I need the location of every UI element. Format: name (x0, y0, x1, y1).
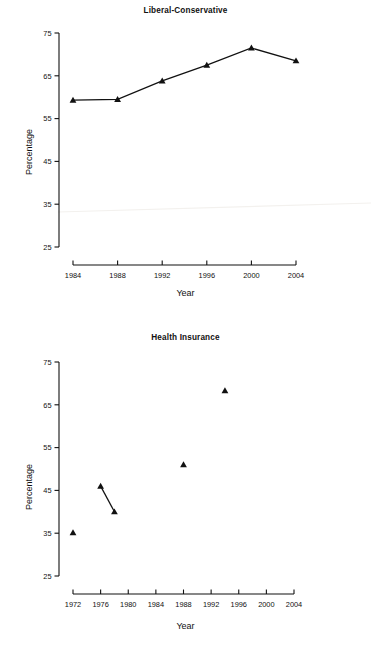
data-line-segment (101, 486, 115, 512)
x-tick-label: 2000 (243, 271, 259, 280)
y-tick-label: 35 (43, 529, 51, 538)
x-tick-label: 1992 (154, 271, 170, 280)
x-tick-label: 1984 (65, 271, 81, 280)
y-axis-label: Percentage (24, 129, 34, 175)
chart-panel-health-insurance: Health Insurance 25354555657519721976198… (0, 325, 371, 649)
data-point-triangle-marker (248, 45, 255, 51)
y-tick-label: 55 (43, 114, 51, 123)
plot-area-liberal-conservative: 253545556575198419881992199620002004 (0, 0, 371, 324)
data-point-triangle-marker (222, 387, 229, 393)
y-tick-label: 25 (43, 572, 51, 581)
data-point-triangle-marker (111, 508, 118, 514)
y-tick-label: 55 (43, 443, 51, 452)
x-tick-label: 1996 (199, 271, 215, 280)
x-tick-label: 1992 (203, 600, 219, 609)
data-point-triangle-marker (97, 483, 104, 489)
y-tick-label: 75 (43, 358, 51, 367)
x-tick-label: 1996 (231, 600, 247, 609)
x-axis-label: Year (0, 621, 371, 631)
y-tick-label: 45 (43, 486, 51, 495)
scan-artifact-line (58, 203, 371, 212)
x-tick-label: 1984 (148, 600, 164, 609)
x-tick-label: 1972 (65, 600, 81, 609)
data-point-triangle-marker (180, 461, 187, 467)
x-axis-label: Year (0, 288, 371, 298)
chart-panel-liberal-conservative: Liberal-Conservative 2535455565751984198… (0, 0, 371, 324)
y-tick-label: 25 (43, 243, 51, 252)
data-point-triangle-marker (70, 529, 77, 535)
x-tick-label: 1980 (120, 600, 136, 609)
x-tick-label: 2004 (286, 600, 302, 609)
y-axis-label: Percentage (24, 464, 34, 510)
x-tick-label: 1976 (92, 600, 108, 609)
x-tick-label: 1988 (109, 271, 125, 280)
y-tick-label: 65 (43, 401, 51, 410)
y-tick-label: 65 (43, 72, 51, 81)
x-tick-label: 2000 (258, 600, 274, 609)
x-tick-label: 2004 (288, 271, 304, 280)
y-tick-label: 35 (43, 200, 51, 209)
plot-area-health-insurance: 2535455565751972197619801984198819921996… (0, 325, 371, 649)
y-tick-label: 45 (43, 157, 51, 166)
y-tick-label: 75 (43, 29, 51, 38)
x-tick-label: 1988 (175, 600, 191, 609)
data-line (73, 48, 296, 100)
